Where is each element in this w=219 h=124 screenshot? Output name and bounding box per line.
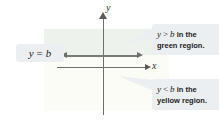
less-relation: < bbox=[163, 84, 168, 94]
equals-constant: b bbox=[46, 46, 52, 61]
less-callout-line-2: yellow region. bbox=[157, 96, 219, 106]
x-axis-arrow-icon bbox=[145, 64, 151, 70]
callout-y-equals-b: y = b bbox=[16, 44, 64, 62]
y-axis-arrow-icon bbox=[99, 12, 107, 19]
greater-callout-line-1: y>b in the bbox=[157, 28, 219, 41]
equals-variable: y bbox=[29, 46, 34, 61]
greater-relation: > bbox=[163, 29, 168, 39]
callout-y-greater-than-b: y>b in the green region. bbox=[152, 24, 219, 55]
y-axis bbox=[103, 16, 104, 115]
y-axis-label: y bbox=[106, 2, 110, 13]
greater-callout-line-2: green region. bbox=[157, 41, 219, 51]
callout-y-less-than-b: y<b in the yellow region. bbox=[152, 79, 219, 110]
less-variable: y bbox=[157, 84, 161, 94]
greater-suffix: in the bbox=[175, 30, 197, 39]
x-axis bbox=[57, 67, 146, 68]
boundary-right-arrow-icon bbox=[137, 52, 143, 58]
inequality-half-plane-figure: y x y = b y>b in the green region. y<b i… bbox=[0, 0, 219, 124]
boundary-line-y-equals-b bbox=[66, 55, 138, 57]
less-callout-leader-line bbox=[118, 74, 156, 92]
equals-relation: = bbox=[37, 46, 43, 61]
less-callout-line-1: y<b in the bbox=[157, 83, 219, 96]
x-axis-label: x bbox=[152, 60, 156, 71]
less-suffix: in the bbox=[175, 85, 197, 94]
greater-variable: y bbox=[157, 29, 161, 39]
